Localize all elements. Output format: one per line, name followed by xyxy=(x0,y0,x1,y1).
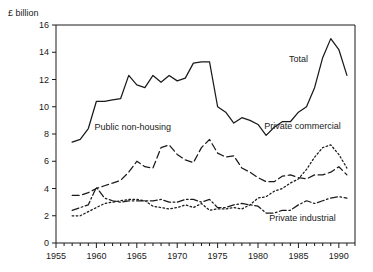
y-tick-label: 12 xyxy=(39,75,49,85)
series-label-total: Total xyxy=(289,54,308,64)
x-tick-label: 1980 xyxy=(248,251,268,261)
x-tick-label: 1975 xyxy=(208,251,228,261)
y-tick-label: 2 xyxy=(44,211,49,221)
x-tick-label: 1955 xyxy=(46,251,66,261)
y-tick-label: 16 xyxy=(39,20,49,30)
y-tick-label: 4 xyxy=(44,184,49,194)
x-tick-label: 1960 xyxy=(86,251,106,261)
line-chart: £ billion 0246810121416 1955196019651970… xyxy=(0,0,373,272)
x-tick-label: 1965 xyxy=(127,251,147,261)
x-tick-label: 1970 xyxy=(167,251,187,261)
chart-page: £ billion 0246810121416 1955196019651970… xyxy=(0,0,373,272)
x-tick-label: 1985 xyxy=(288,251,308,261)
series-label-public-non-housing: Public non-housing xyxy=(94,122,171,132)
y-tick-label: 6 xyxy=(44,156,49,166)
series-label-private-industrial: Private industrial xyxy=(269,213,336,223)
y-tick-label: 14 xyxy=(39,47,49,57)
y-tick-label: 0 xyxy=(44,238,49,248)
x-tick-label: 1990 xyxy=(329,251,349,261)
y-axis-title: £ billion xyxy=(8,8,39,18)
y-tick-label: 8 xyxy=(44,129,49,139)
y-tick-label: 10 xyxy=(39,102,49,112)
series-label-private-commercial: Private commercial xyxy=(264,121,341,131)
